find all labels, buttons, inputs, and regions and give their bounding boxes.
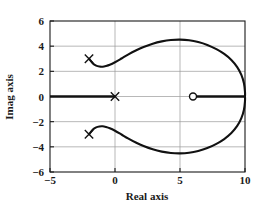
y-tick-label: 4 — [39, 40, 45, 52]
y-tick-label: −2 — [32, 116, 44, 128]
circle-icon — [190, 93, 197, 100]
y-tick-label: 6 — [39, 15, 45, 27]
x-tick-label: 5 — [177, 174, 183, 186]
y-tick-label: 0 — [39, 91, 45, 103]
zero-marker-group — [190, 93, 197, 100]
root-locus-chart: −50510 −6−4−20246 Real axis Imag axis — [0, 0, 265, 207]
y-tick-label: −4 — [32, 141, 44, 153]
x-tick-label: 10 — [240, 174, 252, 186]
y-tick-label: 2 — [39, 65, 45, 77]
x-tick-label: 0 — [112, 174, 118, 186]
x-axis-title: Real axis — [126, 190, 169, 202]
y-tick-label: −6 — [32, 166, 44, 178]
x-tick-label: −5 — [44, 174, 56, 186]
y-axis-title: Imag axis — [3, 74, 15, 120]
